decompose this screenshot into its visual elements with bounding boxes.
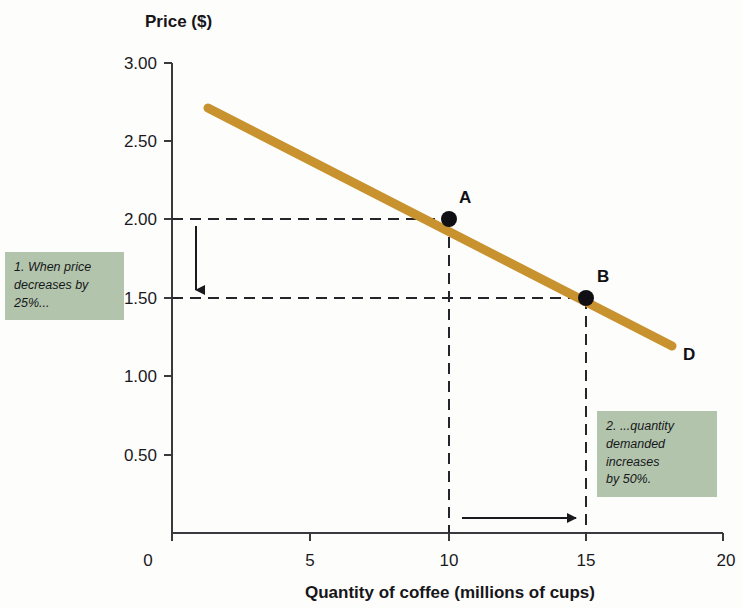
data-point-b-label: B — [597, 267, 609, 286]
data-point-a-label: A — [459, 188, 471, 207]
y-axis-ticks — [164, 63, 172, 455]
demand-curve-line — [208, 108, 672, 346]
y-tick-label-2-50: 2.50 — [124, 132, 157, 151]
callout-price-line-3: 25%... — [14, 295, 116, 313]
callout-quantity-line-3: increases — [606, 454, 709, 472]
x-tick-label-5: 5 — [305, 551, 314, 570]
callout-quantity-line-1: 2. ...quantity — [606, 418, 709, 436]
callout-quantity-increase: 2. ...quantity demanded increases by 50%… — [597, 411, 717, 497]
y-axis-title: Price ($) — [145, 12, 212, 31]
callout-quantity-line-2: demanded — [606, 436, 709, 454]
x-tick-label-15: 15 — [577, 551, 596, 570]
y-tick-label-2-00: 2.00 — [124, 210, 157, 229]
callout-price-line-2: decreases by — [14, 277, 116, 295]
demand-curve-label: D — [683, 345, 695, 364]
callout-price-decrease: 1. When price decreases by 25%... — [5, 252, 124, 320]
x-tick-label-20: 20 — [717, 551, 736, 570]
y-tick-label-0-50: 0.50 — [124, 446, 157, 465]
data-point-a[interactable] — [441, 211, 457, 227]
y-tick-label-1-00: 1.00 — [124, 367, 157, 386]
callout-quantity-line-4: by 50%. — [606, 471, 709, 489]
y-tick-label-1-50: 1.50 — [124, 289, 157, 308]
x-axis-title: Quantity of coffee (millions of cups) — [305, 583, 595, 602]
demand-curve-figure: 3.00 2.50 2.00 1.50 1.00 0.50 Price ($) … — [0, 0, 742, 608]
y-tick-label-3-00: 3.00 — [124, 54, 157, 73]
data-point-b[interactable] — [578, 290, 594, 306]
callout-price-line-1: 1. When price — [14, 259, 116, 277]
x-axis-ticks — [172, 533, 723, 541]
x-tick-label-0: 0 — [143, 551, 152, 570]
x-tick-label-10: 10 — [440, 551, 459, 570]
